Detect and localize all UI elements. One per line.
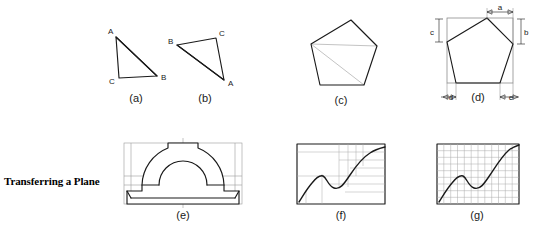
pentagon-c-diagonal-1 bbox=[311, 44, 377, 46]
pentagon-d-dim-label-d: d bbox=[449, 93, 453, 102]
pentagon-c-outline bbox=[311, 20, 377, 85]
curve-f-frame bbox=[297, 144, 385, 204]
figure-caption-f: (f) bbox=[336, 209, 346, 221]
pentagon-d-dim-label-b: b bbox=[524, 28, 529, 37]
figure-caption-c: (c) bbox=[335, 94, 348, 106]
triangle-a-vertex-label-C: C bbox=[109, 77, 115, 86]
figure-caption-e: (e) bbox=[176, 209, 189, 221]
pentagon-d-dim-label-a: a bbox=[498, 3, 503, 12]
curve-f-profile bbox=[299, 147, 385, 202]
figure-g-curve-uniform-grid: (g) bbox=[437, 144, 519, 221]
curve-g-grid-verticals bbox=[444, 144, 512, 204]
figure-caption-d: (d) bbox=[471, 91, 484, 103]
figure-e-bracket: (e) bbox=[124, 138, 242, 221]
figure-caption-a: (a) bbox=[129, 92, 142, 104]
pentagon-d-dim-label-c: c bbox=[430, 28, 434, 37]
triangle-b-outline bbox=[177, 38, 224, 80]
figure-caption-b: (b) bbox=[198, 92, 211, 104]
figure-b-triangle: B C A (b) bbox=[168, 29, 234, 104]
triangle-b-vertex-label-A: A bbox=[228, 79, 234, 88]
figure-d-pentagon-dimensioned: a b c d e (d) bbox=[430, 3, 529, 103]
triangle-a-vertex-label-B: B bbox=[161, 73, 166, 82]
figure-a-triangle: A C B (a) bbox=[108, 27, 166, 104]
figure-c-pentagon: (c) bbox=[311, 20, 377, 106]
triangle-b-diagonal bbox=[177, 45, 224, 80]
triangle-b-vertex-label-B: B bbox=[168, 37, 173, 46]
triangle-a-diagonal bbox=[116, 37, 157, 76]
triangle-b-vertex-label-C: C bbox=[219, 29, 225, 38]
triangle-a-vertex-label-A: A bbox=[108, 27, 114, 36]
figure-f-curve-irregular-grid: (f) bbox=[297, 144, 385, 221]
pentagon-d-outline bbox=[447, 18, 513, 83]
bracket-e-outline bbox=[127, 143, 239, 204]
pentagon-d-dim-label-e: e bbox=[509, 93, 514, 102]
figure-caption-g: (g) bbox=[470, 209, 483, 221]
curve-g-profile bbox=[439, 145, 519, 202]
transferring-a-plane-figure: A C B (a) B C A (b) (c) a b bbox=[0, 0, 548, 232]
